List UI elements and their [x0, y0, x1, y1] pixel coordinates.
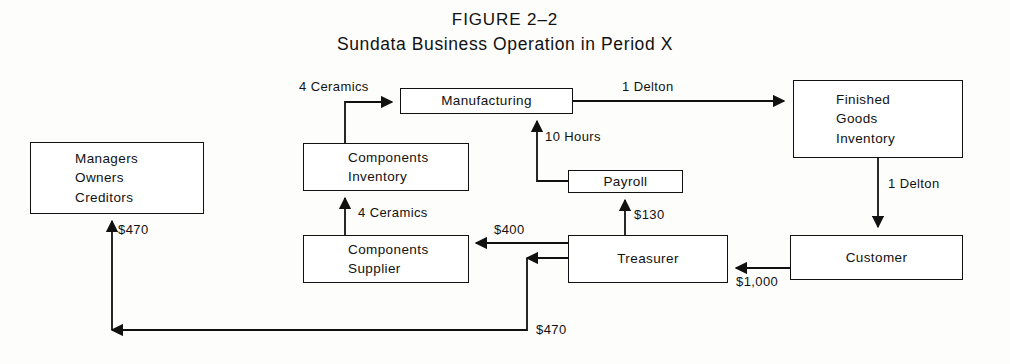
node-payroll[interactable]: Payroll [568, 170, 683, 193]
edge-label-delton-to-customer: 1 Delton [888, 176, 940, 191]
edge-label-ceramics-to-manufacturing: 4 Ceramics [299, 79, 369, 94]
node-components-supplier-line-2: Supplier [348, 259, 401, 278]
figure-container: FIGURE 2–2 Sundata Business Operation in… [0, 0, 1010, 364]
node-payroll-label: Payroll [603, 172, 647, 191]
node-components-inventory-line-2: Inventory [348, 167, 407, 186]
node-finished-goods-line-2: Goods [836, 109, 878, 128]
node-finished-goods-line-3: Inventory [836, 129, 895, 148]
edge-label-distribution-up: $470 [118, 222, 149, 237]
edge-label-payroll-from-treasurer: $130 [634, 207, 665, 222]
edge-label-distribution-bottom: $470 [536, 322, 567, 337]
edge-label-delton-to-finished-goods: 1 Delton [622, 79, 674, 94]
node-customer[interactable]: Customer [790, 235, 963, 280]
node-finished-goods-line-1: Finished [836, 90, 890, 109]
edge-label-hours-to-manufacturing: 10 Hours [545, 129, 601, 144]
node-components-supplier[interactable]: Components Supplier [303, 235, 469, 283]
edge-label-ceramics-to-inventory: 4 Ceramics [358, 205, 428, 220]
node-components-inventory-line-1: Components [348, 148, 429, 167]
node-treasurer[interactable]: Treasurer [568, 235, 728, 283]
node-components-supplier-line-1: Components [348, 240, 429, 259]
node-finished-goods-inventory[interactable]: Finished Goods Inventory [793, 80, 963, 158]
node-components-inventory[interactable]: Components Inventory [303, 143, 469, 191]
node-managers-line-2: Owners [75, 168, 124, 187]
node-managers-line-3: Creditors [75, 188, 133, 207]
edge-label-supplier-payment: $400 [494, 222, 525, 237]
node-manufacturing-label: Manufacturing [441, 91, 532, 110]
edge-label-customer-payment: $1,000 [736, 274, 778, 289]
node-customer-label: Customer [846, 248, 908, 267]
node-managers-line-1: Managers [75, 149, 138, 168]
node-treasurer-label: Treasurer [617, 249, 679, 268]
node-managers-owners-creditors[interactable]: Managers Owners Creditors [30, 142, 204, 214]
node-manufacturing[interactable]: Manufacturing [400, 88, 573, 114]
